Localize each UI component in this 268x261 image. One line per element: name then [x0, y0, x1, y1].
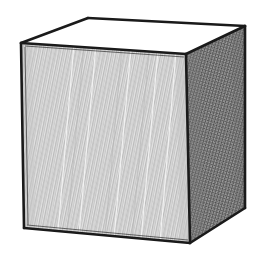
front-face [18, 40, 196, 248]
figure-canvas: Cube Hand-drawn hatched cube in three-qu… [0, 0, 268, 261]
cube-illustration: Cube Hand-drawn hatched cube in three-qu… [0, 0, 268, 261]
front-face-hatching [18, 40, 196, 248]
